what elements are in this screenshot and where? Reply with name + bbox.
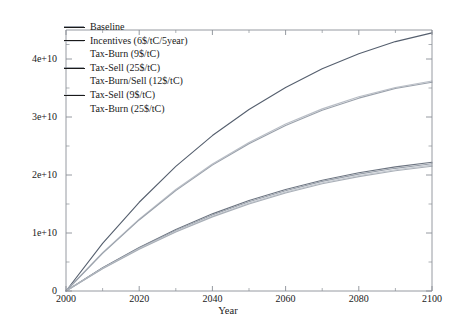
chart-figure: 01e+102e+103e+104e+10 200020202040206020… — [0, 0, 456, 323]
legend-item[interactable]: Incentives (6$/tC/5year) — [62, 34, 232, 48]
legend-line-swatch-icon — [62, 102, 86, 116]
series-line — [66, 164, 432, 291]
y-tick-label: 2e+10 — [0, 169, 57, 180]
legend-item-label: Incentives (6$/tC/5year) — [90, 34, 187, 48]
x-tick-label: 2100 — [402, 293, 456, 304]
legend-line-swatch-icon — [62, 47, 86, 61]
legend-item[interactable]: Tax-Sell (25$/tC) — [62, 61, 232, 75]
x-tick-label: 2080 — [329, 293, 389, 304]
legend-item[interactable]: Baseline — [62, 20, 232, 34]
x-tick-label: 2000 — [36, 293, 96, 304]
legend-item[interactable]: Tax-Sell (9$/tC) — [62, 88, 232, 102]
legend-item-label: Tax-Sell (9$/tC) — [90, 88, 155, 102]
legend-line-swatch-icon — [62, 34, 86, 48]
x-tick-label: 2020 — [109, 293, 169, 304]
series-line — [66, 162, 432, 291]
legend-line-swatch-icon — [62, 88, 86, 102]
y-tick-label: 4e+10 — [0, 53, 57, 64]
x-axis-title: Year — [0, 305, 456, 316]
legend-item-label: Tax-Burn (9$/tC) — [90, 47, 160, 61]
y-tick-label: 3e+10 — [0, 111, 57, 122]
legend-line-swatch-icon — [62, 20, 86, 34]
x-tick-label: 2060 — [256, 293, 316, 304]
legend-item-label: Tax-Sell (25$/tC) — [90, 61, 160, 75]
legend-line-swatch-icon — [62, 61, 86, 75]
x-tick-label: 2040 — [182, 293, 242, 304]
series-line — [66, 165, 432, 291]
legend-item-label: Tax-Burn/Sell (12$/tC) — [90, 74, 183, 88]
legend-item-label: Tax-Burn (25$/tC) — [90, 102, 165, 116]
series-line — [66, 166, 432, 291]
legend-line-swatch-icon — [62, 74, 86, 88]
legend-item-label: Baseline — [90, 20, 124, 34]
y-tick-label: 1e+10 — [0, 227, 57, 238]
legend-item[interactable]: Tax-Burn/Sell (12$/tC) — [62, 74, 232, 88]
chart-legend: BaselineIncentives (6$/tC/5year)Tax-Burn… — [62, 20, 232, 115]
legend-item[interactable]: Tax-Burn (9$/tC) — [62, 47, 232, 61]
legend-item[interactable]: Tax-Burn (25$/tC) — [62, 102, 232, 116]
